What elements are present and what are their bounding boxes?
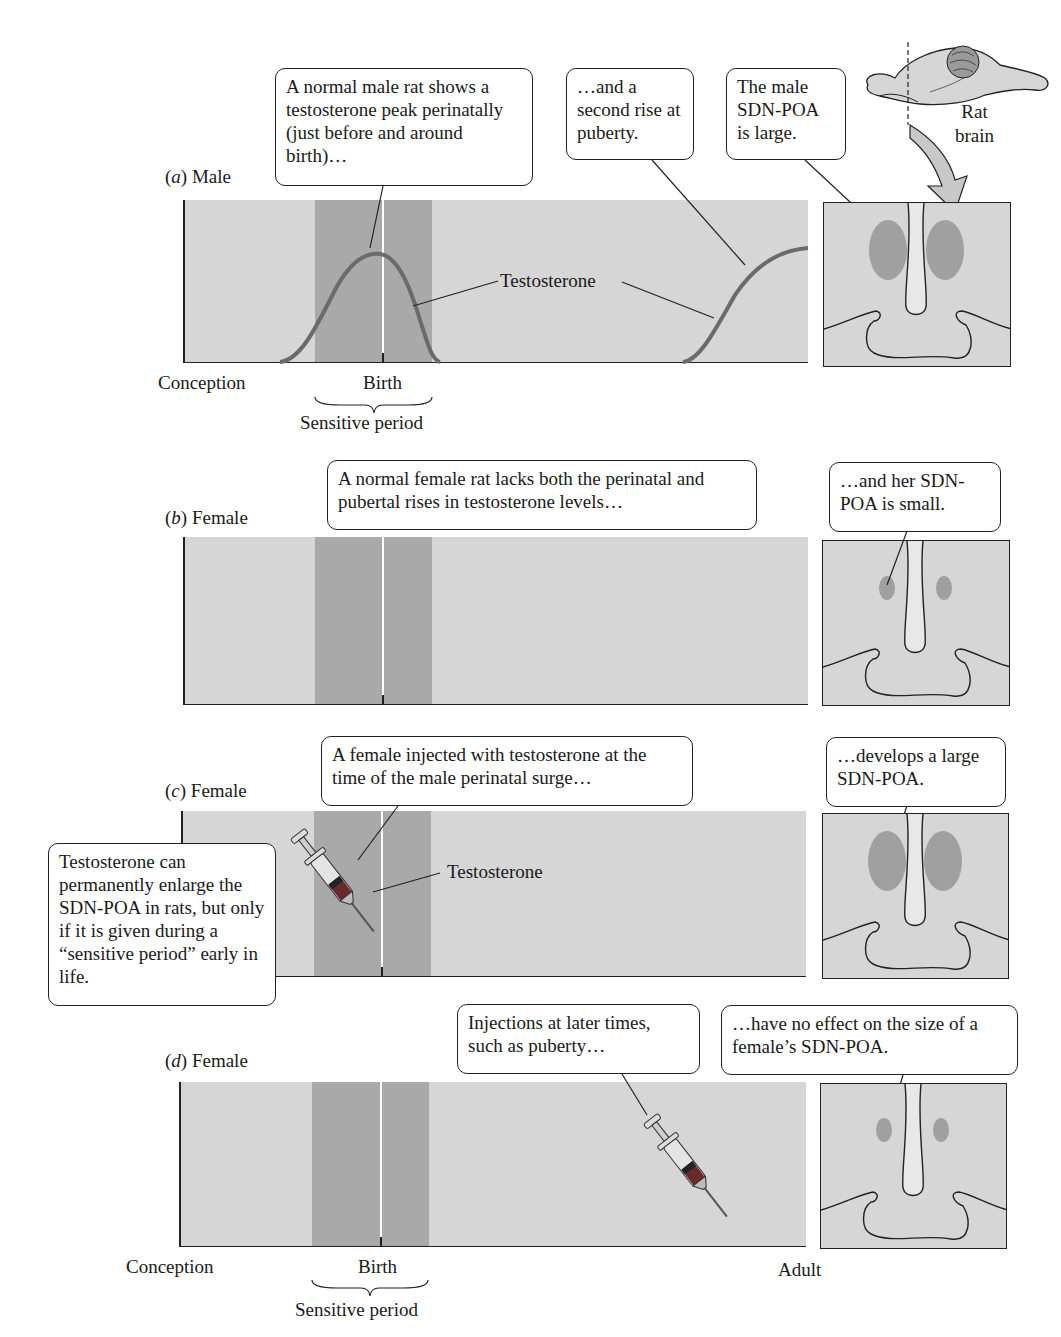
sensitive-period-label-bottom: Sensitive period	[295, 1299, 418, 1321]
sensitive-period-brace-icon-bottom	[0, 0, 1061, 1337]
